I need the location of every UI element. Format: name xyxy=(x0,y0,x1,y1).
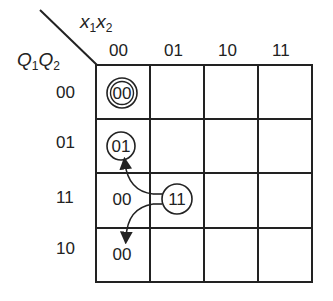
cell-11-01: 11 xyxy=(157,191,197,208)
cell-10-00: 00 xyxy=(102,246,142,263)
row-variable-label: Q1Q2 xyxy=(17,50,60,72)
row-header-01: 01 xyxy=(56,134,75,151)
karnaugh-map: x1x2 Q1Q2 00 01 10 11 00 01 11 10 00 01 … xyxy=(0,0,333,301)
row-header-10: 10 xyxy=(56,240,75,257)
row-header-11: 11 xyxy=(56,189,74,206)
cell-01-00: 01 xyxy=(101,138,141,155)
column-header-10: 10 xyxy=(218,42,237,59)
column-header-00: 00 xyxy=(109,42,128,59)
row-header-00: 00 xyxy=(56,84,75,101)
column-variable-label: x1x2 xyxy=(80,12,112,34)
column-header-01: 01 xyxy=(164,42,183,59)
cell-00-00: 00 xyxy=(102,85,142,102)
arrow-down-icon xyxy=(126,204,153,238)
column-header-11: 11 xyxy=(272,42,290,59)
cell-11-00: 00 xyxy=(102,191,142,208)
